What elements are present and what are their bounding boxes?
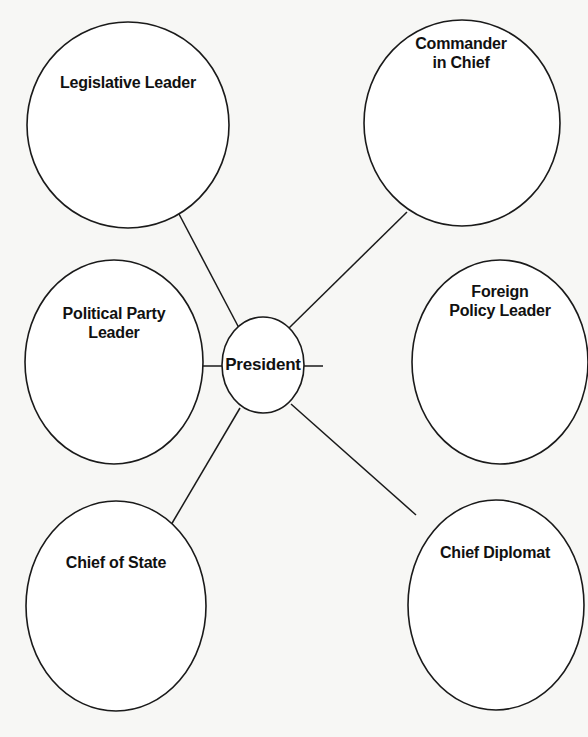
node-chief-of-state-circle (26, 501, 206, 711)
node-label-foreign-policy-leader: Foreign Policy Leader (449, 282, 550, 320)
node-label-political-party-leader: Political Party Leader (63, 304, 166, 342)
node-label-line: Leader (63, 323, 166, 342)
center-node-label-president: President (225, 355, 301, 374)
connector-commander-in-chief (289, 212, 407, 328)
node-label-chief-of-state: Chief of State (66, 553, 166, 572)
node-label-line: Legislative Leader (60, 73, 196, 92)
node-legislative-leader-circle (27, 22, 229, 228)
node-label-legislative-leader: Legislative Leader (60, 73, 196, 92)
node-label-line: Commander (415, 34, 507, 53)
node-label-line: Political Party (63, 304, 166, 323)
node-political-party-leader-circle (25, 260, 203, 464)
node-label-line: in Chief (415, 53, 507, 72)
center-label-text: President (225, 355, 301, 374)
node-label-line: Policy Leader (449, 301, 550, 320)
node-label-chief-diplomat: Chief Diplomat (440, 543, 550, 562)
node-label-commander-in-chief: Commander in Chief (415, 34, 507, 72)
node-label-line: Foreign (449, 282, 550, 301)
node-label-line: Chief of State (66, 553, 166, 572)
node-label-line: Chief Diplomat (440, 543, 550, 562)
connector-chief-diplomat (291, 404, 416, 515)
node-chief-diplomat-circle (408, 500, 584, 710)
